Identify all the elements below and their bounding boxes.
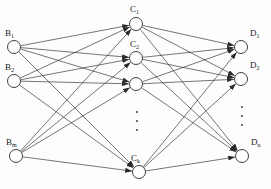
node-c2[interactable]: [130, 52, 143, 65]
node-bm[interactable]: [10, 150, 23, 163]
hidden-layer-ellipsis-dot: [136, 129, 138, 131]
edge-c2-to-dn: [141, 63, 236, 151]
label-dn: Dn: [251, 138, 261, 147]
edge-b2-to-ck: [20, 85, 133, 168]
edge-b1-to-c1: [21, 25, 129, 45]
edge-ck-to-d1: [143, 53, 236, 167]
node-dn[interactable]: [236, 150, 249, 163]
output-layer-ellipsis-dot: [241, 106, 243, 108]
edge-c2-to-d2: [143, 59, 234, 77]
node-b1[interactable]: [8, 41, 21, 54]
edge-ck-to-dn: [146, 157, 235, 171]
label-ck: Ck: [131, 154, 140, 163]
label-c1: C1: [130, 5, 139, 14]
edge-cmid2-to-d2: [143, 79, 234, 83]
node-ck[interactable]: [133, 166, 146, 179]
node-b2[interactable]: [8, 75, 21, 88]
label-bm: Bm: [6, 138, 17, 147]
edge-b2-to-cmid2: [21, 81, 129, 84]
edge-cmid2-to-dn: [142, 88, 236, 152]
edge-c1-to-d1: [143, 25, 234, 45]
label-c2: C2: [130, 40, 139, 49]
label-d2: D2: [250, 61, 260, 70]
edge-bm-to-cmid2: [22, 88, 130, 153]
label-d1: D1: [250, 29, 260, 38]
hidden-layer-ellipsis-dot: [136, 120, 138, 122]
node-c1[interactable]: [130, 18, 143, 31]
output-layer-ellipsis-dot: [241, 115, 243, 117]
edge-c1-to-dn: [140, 29, 237, 150]
edge-ck-to-d2: [144, 84, 235, 167]
edges-group: [19, 25, 237, 171]
output-layer-ellipsis-dot: [241, 124, 243, 126]
label-b1: B1: [5, 29, 14, 38]
node-d1[interactable]: [235, 41, 248, 54]
edge-cmid2-to-d1: [143, 49, 235, 81]
edge-bm-to-c2: [21, 63, 130, 152]
node-cmid2[interactable]: [130, 78, 143, 91]
label-b2: B2: [5, 63, 14, 72]
node-d2[interactable]: [235, 73, 248, 86]
edge-bm-to-c1: [21, 29, 131, 150]
edge-b2-to-c1: [20, 27, 129, 78]
hidden-layer-ellipsis-dot: [136, 111, 138, 113]
edge-bm-to-ck: [23, 157, 132, 171]
neural-network-figure: B1B2BmC1C2CkD1D2Dn: [0, 0, 271, 189]
